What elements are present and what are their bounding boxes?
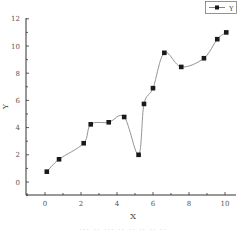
y-tick-label: 6 <box>16 97 21 105</box>
y-tick-label: 2 <box>16 151 20 159</box>
data-point-marker <box>202 56 207 61</box>
x-tick-label: 8 <box>187 200 191 208</box>
legend-marker-icon <box>215 6 219 10</box>
data-point-marker <box>136 153 141 158</box>
data-curve <box>47 32 226 171</box>
line-chart: 0246810120246810XY Y <box>0 0 246 236</box>
series-line-Y <box>47 32 226 171</box>
data-point-marker <box>122 115 127 120</box>
legend: Y <box>206 2 237 14</box>
data-point-marker <box>45 169 50 174</box>
x-tick-label: 4 <box>115 200 120 208</box>
x-tick-label: 10 <box>221 200 230 208</box>
data-point-marker <box>81 141 86 146</box>
y-axis-title: Y <box>1 103 10 110</box>
x-axis-title: X <box>130 212 136 221</box>
y-tick-label: 8 <box>16 70 20 78</box>
chart-container: 0246810120246810XY Y ... .. ... .. .. ..… <box>0 0 246 236</box>
footer-caption: ... .. ... .. .. .. .. .. <box>0 225 246 231</box>
data-point-marker <box>224 30 229 35</box>
x-tick-label: 2 <box>79 200 83 208</box>
legend-label: Y <box>228 5 234 13</box>
data-point-marker <box>151 86 156 91</box>
data-point-marker <box>215 37 220 42</box>
y-tick-label: 10 <box>11 43 20 51</box>
data-point-marker <box>57 157 62 162</box>
data-point-marker <box>179 65 184 70</box>
y-tick-label: 4 <box>16 124 21 132</box>
x-tick-label: 6 <box>151 200 156 208</box>
data-point-marker <box>88 122 93 127</box>
data-point-marker <box>162 51 167 56</box>
x-tick-label: 0 <box>43 200 47 208</box>
y-tick-label: 0 <box>16 179 20 187</box>
data-point-marker <box>142 102 147 107</box>
axes: 0246810120246810XY <box>1 15 236 221</box>
data-point-marker <box>106 120 111 125</box>
y-tick-label: 12 <box>11 15 20 23</box>
